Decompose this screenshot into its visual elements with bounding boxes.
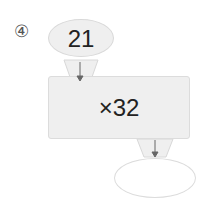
operation-text: ×32 [49,94,189,122]
output-oval[interactable] [114,158,196,198]
input-oval: 21 [48,19,114,57]
input-value: 21 [49,25,113,53]
operation-box: ×32 [48,76,190,139]
